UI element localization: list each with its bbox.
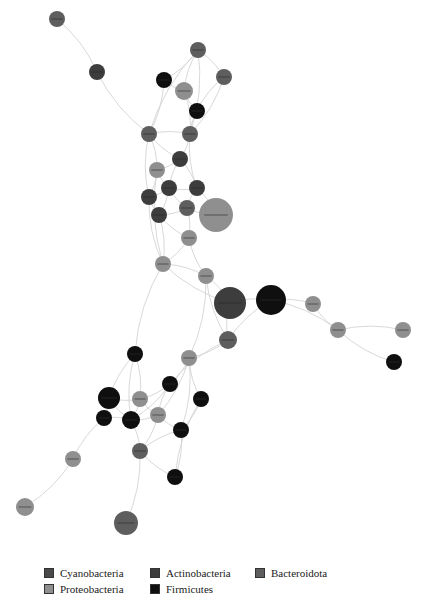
- network-nodes: [16, 11, 411, 535]
- network-node: [214, 287, 246, 319]
- network-edge: [25, 459, 73, 507]
- phylum-legend: Cyanobacteria Actinobacteria Bacteroidot…: [44, 566, 384, 606]
- legend-swatch-bacteroidota: [255, 568, 265, 578]
- node-label-mark: [67, 459, 78, 460]
- node-label-mark: [134, 399, 145, 400]
- node-label-mark: [134, 451, 145, 452]
- node-label-mark: [332, 330, 343, 331]
- node-label-mark: [191, 188, 202, 189]
- network-edge: [135, 264, 163, 354]
- legend-swatch-actinobacteria: [150, 568, 160, 578]
- network-node: [189, 180, 205, 196]
- network-node: [256, 285, 286, 315]
- legend-swatch-cyanobacteria: [44, 568, 54, 578]
- node-label-mark: [158, 80, 169, 81]
- node-label-mark: [91, 72, 102, 73]
- node-label-mark: [174, 159, 185, 160]
- network-node: [189, 103, 205, 119]
- node-label-mark: [164, 384, 175, 385]
- network-node: [151, 207, 167, 223]
- node-label-mark: [143, 197, 154, 198]
- network-edge: [189, 134, 197, 188]
- node-label-mark: [178, 91, 191, 92]
- node-label-mark: [51, 19, 62, 20]
- legend-label: Cyanobacteria: [60, 567, 124, 579]
- network-node: [49, 11, 65, 27]
- node-label-mark: [169, 477, 180, 478]
- node-label-mark: [204, 215, 228, 216]
- node-label-mark: [307, 304, 318, 305]
- network-node: [150, 407, 166, 423]
- node-label-mark: [200, 276, 211, 277]
- network-node: [161, 180, 177, 196]
- network-node: [193, 391, 209, 407]
- network-node: [330, 322, 346, 338]
- network-edges: [25, 19, 403, 523]
- network-edge: [189, 276, 206, 358]
- network-node: [65, 451, 81, 467]
- legend-item-bacteroidota: Bacteroidota: [255, 566, 327, 579]
- network-node: [162, 376, 178, 392]
- node-label-mark: [143, 134, 154, 135]
- network-node: [386, 354, 402, 370]
- network-node: [179, 200, 195, 216]
- network-node: [114, 511, 138, 535]
- network-edge: [129, 354, 135, 420]
- network-node: [182, 126, 198, 142]
- legend-item-cyanobacteria: Cyanobacteria: [44, 566, 124, 579]
- node-label-mark: [191, 111, 202, 112]
- legend-item-actinobacteria: Actinobacteria: [150, 566, 231, 579]
- node-label-mark: [153, 215, 164, 216]
- network-node: [149, 162, 165, 178]
- network-node: [216, 69, 232, 85]
- network-node: [395, 322, 411, 338]
- node-label-mark: [101, 398, 116, 399]
- network-node: [181, 230, 197, 246]
- node-label-mark: [218, 77, 229, 78]
- node-label-mark: [98, 418, 109, 419]
- network-node: [141, 126, 157, 142]
- network-edge: [338, 330, 394, 362]
- node-label-mark: [125, 420, 138, 421]
- network-node: [155, 256, 171, 272]
- node-label-mark: [157, 264, 168, 265]
- node-label-mark: [19, 507, 32, 508]
- node-label-mark: [192, 50, 203, 51]
- legend-swatch-firmicutes: [150, 584, 160, 594]
- node-label-mark: [222, 340, 235, 341]
- network-diagram: [0, 0, 422, 550]
- legend-item-firmicutes: Firmicutes: [150, 582, 213, 595]
- network-node: [167, 469, 183, 485]
- network-node: [132, 391, 148, 407]
- legend-item-proteobacteria: Proteobacteria: [44, 582, 124, 595]
- node-label-mark: [184, 134, 195, 135]
- node-label-mark: [152, 415, 163, 416]
- node-label-mark: [219, 303, 241, 304]
- node-label-mark: [183, 238, 194, 239]
- node-label-mark: [175, 430, 186, 431]
- network-node: [219, 331, 237, 349]
- network-node: [141, 189, 157, 205]
- node-label-mark: [181, 208, 192, 209]
- node-label-mark: [261, 300, 282, 301]
- network-edge: [97, 72, 149, 134]
- node-label-mark: [163, 188, 174, 189]
- network-edge: [338, 326, 403, 330]
- legend-swatch-proteobacteria: [44, 584, 54, 594]
- network-node: [305, 296, 321, 312]
- network-node: [190, 42, 206, 58]
- network-node: [156, 72, 172, 88]
- network-node: [89, 64, 105, 80]
- network-node: [96, 410, 112, 426]
- network-edge: [57, 19, 97, 72]
- network-node: [122, 411, 140, 429]
- network-node: [98, 387, 120, 409]
- network-edge: [145, 134, 149, 197]
- network-node: [198, 268, 214, 284]
- node-label-mark: [397, 330, 408, 331]
- network-node: [181, 350, 197, 366]
- network-node: [173, 422, 189, 438]
- network-node: [127, 346, 143, 362]
- network-node: [16, 498, 34, 516]
- node-label-mark: [129, 354, 140, 355]
